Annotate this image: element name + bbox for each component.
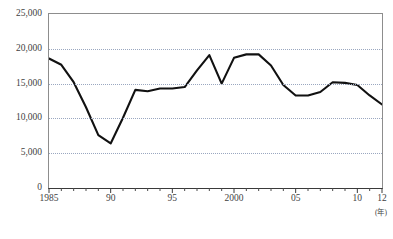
- x-axis-labels: 198590952000051012: [0, 0, 393, 239]
- x-axis-tick-label: 10: [353, 193, 363, 203]
- x-axis-tick-label: 05: [291, 193, 301, 203]
- x-axis-unit-label: (年): [375, 206, 387, 217]
- x-axis-tick-label: 1985: [40, 193, 59, 203]
- x-axis-tick-label: 2000: [225, 193, 244, 203]
- line-chart: 05,00010,00015,00020,00025,000 198590952…: [0, 0, 393, 239]
- x-axis-tick-label: 12: [377, 193, 387, 203]
- x-axis-tick-label: 95: [168, 193, 178, 203]
- x-axis-tick-label: 90: [106, 193, 116, 203]
